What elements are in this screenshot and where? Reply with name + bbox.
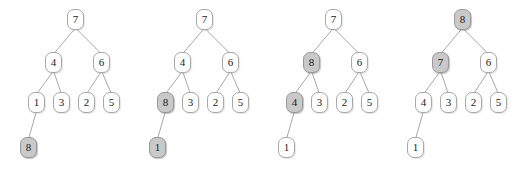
tree-panel-1: 74613258 bbox=[0, 0, 129, 170]
tree-node-right-child: 6 bbox=[222, 52, 239, 73]
tree-edge bbox=[416, 111, 424, 139]
tree-edge bbox=[54, 28, 76, 54]
tree-panel-4: 87643251 bbox=[387, 0, 516, 170]
tree-edge bbox=[158, 111, 166, 139]
tree-node-leaf-3: 5 bbox=[361, 92, 378, 113]
tree-edge bbox=[29, 111, 37, 139]
tree-edge bbox=[166, 71, 183, 94]
tree-edge bbox=[312, 28, 334, 54]
tree-edge bbox=[183, 71, 191, 94]
tree-node-leaf-0: 1 bbox=[28, 92, 45, 113]
tree-node-leaf-3: 5 bbox=[490, 92, 507, 113]
tree-edge bbox=[360, 71, 370, 94]
tree-node-left-child: 4 bbox=[45, 52, 62, 73]
tree-node-leaf-2: 2 bbox=[207, 92, 224, 113]
tree-edge bbox=[441, 71, 449, 94]
tree-node-leaf-3: 5 bbox=[232, 92, 249, 113]
tree-edge bbox=[345, 71, 360, 94]
tree-edge bbox=[183, 28, 205, 54]
tree-edge bbox=[102, 71, 112, 94]
tree-node-leaf-2: 2 bbox=[78, 92, 95, 113]
tree-edge bbox=[87, 71, 102, 94]
tree-edge bbox=[334, 28, 360, 54]
tree-edge bbox=[424, 71, 441, 94]
tree-node-root: 7 bbox=[325, 9, 342, 30]
tree-node-root: 8 bbox=[454, 9, 471, 30]
tree-node-deep-leaf: 8 bbox=[20, 137, 37, 158]
tree-node-leaf-2: 2 bbox=[465, 92, 482, 113]
tree-node-leaf-1: 3 bbox=[440, 92, 457, 113]
tree-node-leaf-0: 4 bbox=[415, 92, 432, 113]
tree-node-deep-leaf: 1 bbox=[149, 137, 166, 158]
tree-edge bbox=[312, 71, 320, 94]
tree-node-root: 7 bbox=[196, 9, 213, 30]
tree-edge bbox=[463, 28, 489, 54]
tree-node-left-child: 8 bbox=[303, 52, 320, 73]
tree-node-right-child: 6 bbox=[351, 52, 368, 73]
tree-node-leaf-1: 3 bbox=[53, 92, 70, 113]
tree-node-right-child: 6 bbox=[93, 52, 110, 73]
tree-node-left-child: 4 bbox=[174, 52, 191, 73]
tree-node-leaf-1: 3 bbox=[182, 92, 199, 113]
heap-siftup-figure: 74613258746832517864325187643251 bbox=[0, 0, 526, 170]
tree-node-leaf-0: 4 bbox=[286, 92, 303, 113]
tree-edge bbox=[295, 71, 312, 94]
tree-edge bbox=[231, 71, 241, 94]
tree-panel-2: 74683251 bbox=[129, 0, 258, 170]
tree-node-leaf-3: 5 bbox=[103, 92, 120, 113]
tree-edge bbox=[474, 71, 489, 94]
tree-node-leaf-0: 8 bbox=[157, 92, 174, 113]
tree-edge bbox=[37, 71, 54, 94]
tree-edge bbox=[216, 71, 231, 94]
tree-node-right-child: 6 bbox=[480, 52, 497, 73]
tree-edge bbox=[489, 71, 499, 94]
tree-edge bbox=[76, 28, 102, 54]
tree-node-leaf-1: 3 bbox=[311, 92, 328, 113]
tree-node-left-child: 7 bbox=[432, 52, 449, 73]
tree-panel-3: 78643251 bbox=[258, 0, 387, 170]
tree-edge bbox=[54, 71, 62, 94]
tree-edge bbox=[205, 28, 231, 54]
tree-node-leaf-2: 2 bbox=[336, 92, 353, 113]
tree-edge bbox=[441, 28, 463, 54]
tree-node-deep-leaf: 1 bbox=[407, 137, 424, 158]
tree-node-deep-leaf: 1 bbox=[278, 137, 295, 158]
tree-node-root: 7 bbox=[67, 9, 84, 30]
tree-edge bbox=[287, 111, 295, 139]
